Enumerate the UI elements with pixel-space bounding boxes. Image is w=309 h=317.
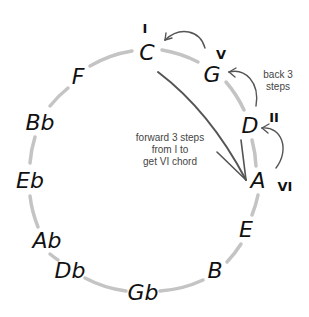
caption-forward-line-2: from I to [152,144,189,155]
numeral-i: I [143,21,148,36]
note-gb: Gb [127,280,158,305]
caption-forward-line-3: get VI chord [143,156,197,167]
note-eb: Eb [16,168,44,193]
note-ab: Ab [30,228,61,253]
note-b: B [207,258,222,283]
note-c: C [139,40,155,65]
circle-ring [30,50,258,291]
note-a: A [248,168,265,193]
caption-back-line-1: back 3 [263,69,293,80]
arrow-d-to-g [229,68,257,106]
numeral-v: V [216,47,226,62]
circle-of-fifths-diagram: C G D A E B Gb Db Ab Eb Bb F I V II VI b… [0,0,309,317]
arrow-g-to-c [165,32,205,48]
note-f: F [72,64,85,89]
numeral-ii: II [269,110,279,125]
caption-back-3-steps: back 3 steps [263,69,293,92]
roman-numerals: I V II VI [143,21,293,194]
arrow-a-to-d [262,124,283,168]
caption-back-line-2: steps [266,81,290,92]
caption-forward-line-1: forward 3 steps [136,132,204,143]
note-bb: Bb [25,110,54,135]
note-d: D [242,113,259,138]
note-labels: C G D A E B Gb Db Ab Eb Bb F [16,40,265,305]
numeral-vi: VI [278,179,293,194]
note-db: Db [55,258,86,283]
note-g: G [203,62,220,87]
caption-forward-3-steps: forward 3 steps from I to get VI chord [136,132,204,167]
note-e: E [239,217,253,242]
